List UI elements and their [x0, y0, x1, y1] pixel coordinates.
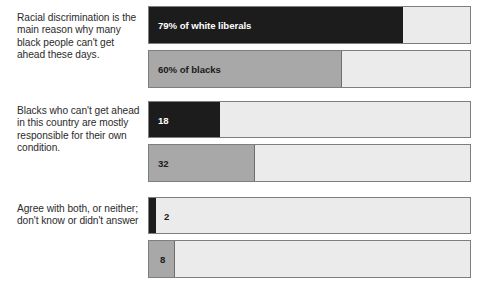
chart-group: Racial discrimination is the main reason…	[0, 6, 485, 92]
bar-track: 79% of white liberals	[148, 6, 471, 44]
group-label: Racial discrimination is the main reason…	[17, 12, 143, 62]
bar-value-label: 8	[160, 254, 165, 265]
bar-value-label: 18	[158, 114, 169, 125]
bar-fill	[149, 198, 156, 233]
group-bars: 18 32	[148, 101, 471, 182]
group-bars: 79% of white liberals 60% of blacks	[148, 6, 471, 88]
bar-chart: Racial discrimination is the main reason…	[0, 0, 485, 283]
chart-group: Agree with both, or neither; don't know …	[0, 197, 485, 283]
bar-track: 18	[148, 101, 471, 138]
group-label: Agree with both, or neither; don't know …	[17, 203, 153, 228]
bar-track: 32	[148, 144, 471, 182]
bar-value-label: 60% of blacks	[158, 64, 221, 75]
bar-track: 2	[148, 197, 471, 234]
bar-track: 8	[148, 240, 471, 278]
bar-value-label: 32	[158, 158, 169, 169]
chart-group: Blacks who can't get ahead in this count…	[0, 101, 485, 187]
group-bars: 2 8	[148, 197, 471, 278]
bar-value-label: 2	[164, 210, 169, 221]
group-label: Blacks who can't get ahead in this count…	[17, 105, 143, 155]
bar-value-label: 79% of white liberals	[158, 20, 251, 31]
bar-track: 60% of blacks	[148, 50, 471, 88]
